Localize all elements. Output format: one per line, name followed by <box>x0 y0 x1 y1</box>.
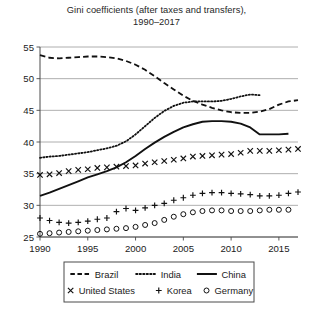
y-tick-label: 35 <box>23 168 34 179</box>
series-marker <box>181 156 186 161</box>
series-marker <box>142 205 148 211</box>
series-marker <box>95 228 100 233</box>
series-marker <box>85 218 91 224</box>
series-marker <box>238 191 244 197</box>
series-marker <box>210 208 215 213</box>
y-tick-label: 30 <box>23 200 34 211</box>
y-tick-label: 25 <box>23 232 34 243</box>
y-tick-label: 50 <box>23 73 34 84</box>
series-marker <box>133 208 139 214</box>
series-marker <box>228 151 233 156</box>
legend-item-label: Korea <box>167 285 193 296</box>
series-marker <box>76 229 81 234</box>
series-marker <box>95 165 100 170</box>
series-marker <box>229 209 234 214</box>
series-marker <box>142 161 147 166</box>
series-line <box>40 95 260 158</box>
legend-item[interactable]: United States <box>68 285 135 296</box>
series-line <box>40 121 288 196</box>
legend-item-label: United States <box>79 285 136 296</box>
legend-item-label: India <box>161 269 182 280</box>
y-tick-label: 40 <box>23 137 34 148</box>
series-marker <box>37 215 43 221</box>
series-united-states <box>37 146 300 177</box>
legend-item-label: China <box>221 269 246 280</box>
series-marker <box>266 193 272 199</box>
series-marker <box>247 192 253 198</box>
series-marker <box>75 220 81 226</box>
series-marker <box>238 150 243 155</box>
y-tick-label: 55 <box>23 42 34 53</box>
series-marker <box>209 153 214 158</box>
series-marker <box>257 193 263 199</box>
series-marker <box>66 168 71 173</box>
x-tick-label: 2015 <box>268 243 289 254</box>
series-marker <box>200 209 205 214</box>
series-marker <box>47 172 52 177</box>
series-marker <box>162 158 167 163</box>
x-tick-label: 2000 <box>125 243 146 254</box>
x-tick-label: 1995 <box>77 243 98 254</box>
series-marker <box>152 221 157 226</box>
series-marker <box>209 190 215 196</box>
series-marker <box>56 220 62 226</box>
series-marker <box>123 206 129 212</box>
series-marker <box>180 195 186 201</box>
y-axis-ticks <box>37 47 41 237</box>
series-marker <box>267 148 272 153</box>
chart-container: Gini coefficients (after taxes and trans… <box>0 0 313 310</box>
series-marker <box>228 190 234 196</box>
series-marker <box>104 227 109 232</box>
series-marker <box>66 220 72 226</box>
series-marker <box>190 154 195 159</box>
series-brazil <box>40 55 298 113</box>
series-marker <box>190 192 196 198</box>
x-tick-label: 1990 <box>29 243 50 254</box>
x-axis-ticks <box>40 237 279 241</box>
data-series-group <box>37 55 301 236</box>
series-marker <box>66 229 71 234</box>
series-india <box>40 95 260 158</box>
x-axis-labels: 199019952000200520102015 <box>29 243 289 254</box>
series-marker <box>133 163 138 168</box>
series-marker <box>124 226 129 231</box>
series-marker <box>276 192 282 198</box>
y-tick-label: 45 <box>23 105 34 116</box>
x-tick-label: 2005 <box>173 243 194 254</box>
series-marker <box>123 163 128 168</box>
gridlines-group <box>40 47 298 237</box>
series-marker <box>219 208 224 213</box>
series-marker <box>133 224 138 229</box>
series-marker <box>286 147 291 152</box>
series-germany <box>38 207 291 236</box>
series-marker <box>57 230 62 235</box>
series-marker <box>190 210 195 215</box>
series-marker <box>56 170 61 175</box>
series-marker <box>143 222 148 227</box>
series-marker <box>76 167 81 172</box>
series-marker <box>257 148 262 153</box>
series-marker <box>219 152 224 157</box>
legend-item-label: Brazil <box>95 269 118 280</box>
series-china <box>40 121 288 196</box>
series-marker <box>276 207 281 212</box>
series-marker <box>238 209 243 214</box>
series-marker <box>47 231 52 236</box>
series-marker <box>200 190 206 196</box>
series-marker <box>114 209 120 215</box>
series-marker <box>114 226 119 231</box>
x-tick-label: 2010 <box>220 243 241 254</box>
y-axis-labels: 25303540455055 <box>23 42 34 243</box>
series-marker <box>104 215 110 221</box>
series-marker <box>248 148 253 153</box>
series-marker <box>171 214 176 219</box>
series-marker <box>267 207 272 212</box>
series-marker <box>181 212 186 217</box>
series-line <box>40 55 298 113</box>
series-marker <box>286 190 292 196</box>
series-marker <box>171 157 176 162</box>
series-marker <box>152 202 158 208</box>
series-marker <box>219 190 225 196</box>
series-marker <box>276 148 281 153</box>
series-marker <box>85 167 90 172</box>
